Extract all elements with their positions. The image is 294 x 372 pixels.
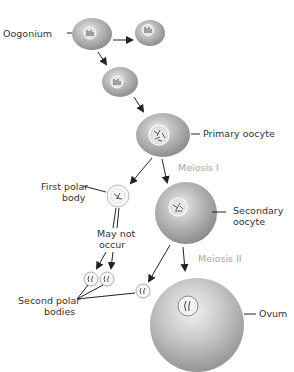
label-second-polar-line2: bodies (44, 306, 75, 317)
label-meiosis-2: Meiosis II (198, 253, 242, 264)
label-meiosis-1: Meiosis I (178, 162, 219, 173)
first-polar-body-cell (107, 185, 129, 207)
label-may-not-line1: May not (97, 228, 135, 239)
label-secondary-line1: Secondary (233, 205, 284, 216)
polar-split-line-2 (117, 208, 119, 228)
arrow-to-primary-oocyte (134, 97, 143, 111)
arrow-mitosis-down (98, 52, 106, 64)
label-second-polar-line1: Second polar (18, 295, 80, 306)
ovum-cell (150, 278, 244, 372)
label-primary-oocyte: Primary oocyte (203, 128, 275, 139)
arrow-to-ovum (183, 247, 185, 270)
oogenesis-diagram: Oogonium Primary oocyte Meiosis I First … (0, 0, 294, 372)
label-ovum: Ovum (259, 308, 287, 319)
primary-oocyte-cell (136, 113, 190, 157)
second-polar-body-b (100, 272, 114, 286)
label-may-not-line2: occur (99, 239, 125, 250)
second-polar-body-c (136, 284, 150, 298)
arrow-to-polar-body-b (111, 252, 113, 268)
arrow-to-polar-body-a (97, 252, 106, 268)
secondary-oocyte-cell (155, 182, 217, 244)
polar-split-line-1 (113, 208, 116, 228)
second-polar-body-a (84, 272, 98, 286)
label-secondary-line2: oocyte (233, 216, 265, 227)
label-first-polar-line1: First polar (41, 181, 88, 192)
oogonium-daughter-cell (135, 20, 165, 46)
arrow-to-first-polar-body (131, 158, 152, 183)
label-first-polar-line2: body (62, 192, 86, 203)
arrow-to-secondary-oocyte (162, 159, 167, 182)
oogonium-cell (72, 18, 112, 50)
label-oogonium: Oogonium (3, 28, 52, 39)
arrow-to-second-polar-body (149, 245, 170, 281)
oogonium-cell-2 (102, 67, 138, 97)
